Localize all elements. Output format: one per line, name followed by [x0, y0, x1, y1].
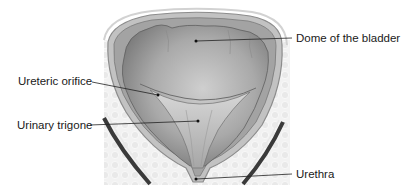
dot-ureteric-orifice	[157, 94, 160, 97]
label-urethra: Urethra	[296, 168, 334, 181]
bladder-illustration	[0, 0, 403, 193]
dot-urethra	[195, 178, 198, 181]
label-urinary-trigone: Urinary trigone	[17, 119, 92, 132]
dot-urinary-trigone	[197, 120, 200, 123]
label-ureteric-orifice: Ureteric orifice	[18, 75, 92, 88]
label-dome-of-bladder: Dome of the bladder	[296, 32, 400, 45]
bladder-diagram: Dome of the bladder Ureteric orifice Uri…	[0, 0, 403, 193]
dot-dome	[195, 40, 198, 43]
